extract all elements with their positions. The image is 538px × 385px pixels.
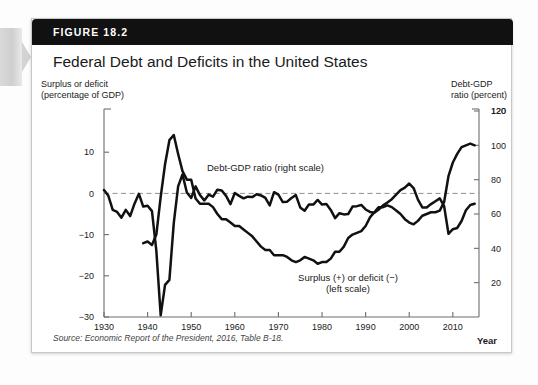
annotation-deficit-line1: Surplus (+) or deficit (−) <box>298 272 398 283</box>
tick-label: 1970 <box>268 322 288 332</box>
tick-label: 1930 <box>94 322 114 332</box>
axis-group <box>104 109 479 317</box>
tick-label: 20 <box>491 278 501 288</box>
tick-label: −20 <box>79 271 94 281</box>
tick-label: 40 <box>491 244 501 254</box>
plot-area: 100−10−20−30 20406080100120120 193019401… <box>32 19 513 354</box>
tick-label: 1940 <box>138 322 158 332</box>
tick-label: 0 <box>89 189 94 199</box>
figure-screenshot: FIGURE 18.2 Federal Debt and Deficits in… <box>0 0 538 385</box>
x-axis-ticks: 193019401950196019701980199020002010 <box>94 312 463 332</box>
source-text: Economic Report of the President, 2016, … <box>85 333 284 343</box>
annotation-debt-gdp: Debt-GDP ratio (right scale) <box>207 162 324 173</box>
page-edge-tab <box>0 28 22 86</box>
tick-label: 100 <box>491 141 506 151</box>
tick-label: −10 <box>79 230 94 240</box>
source-prefix: Source: <box>53 333 82 343</box>
tick-label: −30 <box>79 312 94 322</box>
tick-label: 60 <box>491 209 501 219</box>
tick-label: 1960 <box>225 322 245 332</box>
chart-svg: 100−10−20−30 20406080100120120 193019401… <box>32 19 513 354</box>
x-axis-label: Year <box>477 335 497 346</box>
annotation-deficit-line2: (left scale) <box>326 283 370 294</box>
tick-label: 1990 <box>356 322 376 332</box>
tick-label: 1950 <box>181 322 201 332</box>
tick-label: 2010 <box>443 322 463 332</box>
series-line-debt-gdp-ratio <box>143 135 474 264</box>
tick-label: 120 <box>491 106 506 116</box>
figure-card: FIGURE 18.2 Federal Debt and Deficits in… <box>31 18 512 353</box>
tick-label: 80 <box>491 175 501 185</box>
tick-label: 2000 <box>399 322 419 332</box>
tick-label: 1980 <box>312 322 332 332</box>
figure-source: Source: Economic Report of the President… <box>53 333 283 343</box>
tick-label: 10 <box>84 147 94 157</box>
